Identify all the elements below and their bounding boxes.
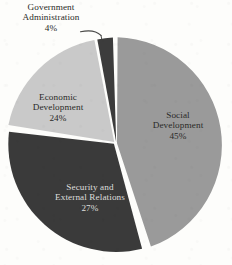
pie-label-economic-development-percent: 24% <box>12 113 104 123</box>
pie-label-social-development: Social Development 45% <box>136 110 220 141</box>
pie-label-government-administration-line2: Administration <box>22 12 79 22</box>
pie-label-security-external-relations-line2: External Relations <box>55 192 125 202</box>
pie-label-social-development-percent: 45% <box>136 131 220 141</box>
pie-label-security-external-relations-line1: Security and <box>66 182 113 192</box>
pie-label-security-external-relations-percent: 27% <box>33 203 147 213</box>
pie-label-social-development-line2: Development <box>153 120 204 130</box>
pie-label-economic-development: Economic Development 24% <box>12 92 104 123</box>
pie-label-government-administration-percent: 4% <box>3 23 99 33</box>
pie-label-economic-development-line2: Development <box>33 102 84 112</box>
pie-label-security-external-relations: Security and External Relations 27% <box>33 182 147 213</box>
pie-chart-figure: Social Development 45% Security and Exte… <box>0 0 232 265</box>
pie-label-economic-development-line1: Economic <box>39 92 77 102</box>
pie-label-social-development-line1: Social <box>166 110 190 120</box>
pie-slice-economic-development[interactable] <box>8 40 114 142</box>
pie-label-government-administration: Government Administration 4% <box>3 2 99 33</box>
leader-line-government-administration-tail <box>101 35 102 38</box>
pie-label-government-administration-line1: Government <box>28 2 75 12</box>
